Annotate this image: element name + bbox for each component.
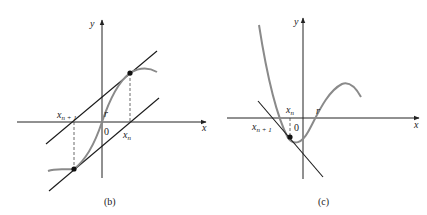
y-axis-label: y — [293, 16, 299, 27]
root-label: r — [316, 105, 320, 116]
panel-c: y x 0 r xn xn + 1 (c) — [227, 16, 419, 208]
function-curve — [259, 25, 361, 143]
xn-label: xn — [122, 129, 131, 142]
origin-label: 0 — [294, 122, 299, 133]
origin-label: 0 — [104, 126, 109, 137]
point-xn — [287, 134, 292, 139]
caption-b: (b) — [104, 196, 116, 208]
point-lower — [71, 166, 76, 171]
figure: y x 0 r xn + 1 xn (b) y x 0 r — [0, 0, 427, 215]
xn1-label: xn + 1 — [251, 121, 272, 134]
point-upper — [127, 70, 132, 75]
x-axis-label: x — [413, 119, 419, 130]
y-axis-label: y — [89, 18, 95, 29]
caption-c: (c) — [318, 196, 329, 208]
root-label: r — [104, 108, 108, 119]
xn1-label: xn + 1 — [56, 109, 77, 122]
xn-label: xn — [285, 104, 294, 117]
figure-svg: y x 0 r xn + 1 xn (b) y x 0 r — [0, 0, 427, 215]
x-axis-label: x — [201, 122, 207, 133]
panel-b: y x 0 r xn + 1 xn (b) — [17, 18, 207, 208]
